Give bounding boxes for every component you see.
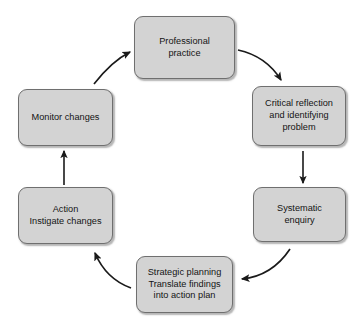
- node-strategic-planning-label: Strategic planning Translate findings in…: [148, 267, 222, 302]
- node-critical-reflection-label: Critical reflection and identifying prob…: [265, 98, 333, 133]
- arrow-systematic-enquiry-to-strategic-planning: [242, 249, 290, 279]
- node-professional-practice: Professional practice: [134, 16, 235, 79]
- node-systematic-enquiry-label: Systematic enquiry: [277, 203, 322, 227]
- arrow-monitor-changes-to-professional-practice: [94, 52, 130, 84]
- node-action-label: Action Instigate changes: [29, 204, 101, 228]
- cycle-diagram: Professional practice Critical reflectio…: [0, 0, 362, 328]
- arrow-professional-practice-to-critical-reflection: [238, 50, 281, 80]
- arrow-strategic-planning-to-action: [95, 253, 131, 288]
- node-monitor-changes-label: Monitor changes: [32, 112, 100, 124]
- node-action: Action Instigate changes: [18, 187, 113, 244]
- node-systematic-enquiry: Systematic enquiry: [253, 187, 346, 242]
- node-monitor-changes: Monitor changes: [18, 89, 113, 146]
- node-critical-reflection: Critical reflection and identifying prob…: [252, 86, 346, 146]
- node-professional-practice-label: Professional practice: [159, 36, 210, 60]
- node-strategic-planning: Strategic planning Translate findings in…: [136, 256, 233, 313]
